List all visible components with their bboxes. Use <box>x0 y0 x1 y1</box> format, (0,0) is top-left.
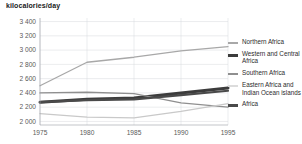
x-tick-label: 1995 <box>221 129 236 136</box>
legend-swatch-icon <box>228 104 238 107</box>
y-axis-tick-labels: 2 0002 2002 4002 6002 8003 0003 2003 400 <box>19 18 36 125</box>
legend-item[interactable]: Southern Africa <box>228 69 302 76</box>
legend-item-label: Western and Central Africa <box>242 50 302 65</box>
legend-item[interactable]: Eastern Africa and Indian Ocean islands <box>228 81 302 96</box>
y-tick-label: 2 000 <box>19 118 36 125</box>
legend-item-label: Northern Africa <box>242 38 284 45</box>
legend-swatch-icon <box>228 85 238 87</box>
legend-item-label: Africa <box>242 100 258 107</box>
y-tick-label: 2 200 <box>19 103 36 110</box>
x-axis-tick-labels: 19751980198519901995 <box>33 129 236 136</box>
legend-swatch-icon <box>228 73 238 75</box>
x-tick-label: 1990 <box>174 129 189 136</box>
y-tick-label: 2 400 <box>19 89 36 96</box>
y-tick-label: 3 000 <box>19 46 36 53</box>
legend-item[interactable]: Northern Africa <box>228 38 302 45</box>
x-tick-label: 1985 <box>127 129 142 136</box>
legend-item-label: Southern Africa <box>242 69 285 76</box>
x-tick-label: 1975 <box>33 129 48 136</box>
y-tick-label: 2 800 <box>19 61 36 68</box>
y-tick-label: 2 600 <box>19 75 36 82</box>
legend-swatch-icon <box>228 42 238 44</box>
legend-item[interactable]: Africa <box>228 100 302 107</box>
y-tick-label: 3 200 <box>19 32 36 39</box>
y-tick-label: 3 400 <box>19 18 36 25</box>
legend-item[interactable]: Western and Central Africa <box>228 50 302 65</box>
legend-swatch-icon <box>228 54 238 57</box>
chart-legend: Northern AfricaWestern and Central Afric… <box>228 38 302 112</box>
x-tick-label: 1980 <box>80 129 95 136</box>
legend-item-label: Eastern Africa and Indian Ocean islands <box>242 81 302 96</box>
chart-container: kilocalories/day 2 0002 2002 4002 6002 8… <box>0 0 302 144</box>
